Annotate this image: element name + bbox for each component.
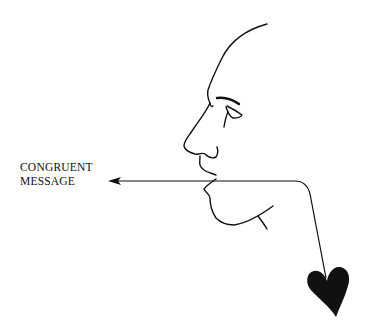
heart-icon [307,267,349,317]
face-profile-icon [184,24,267,175]
diagram-canvas [0,0,368,336]
arrow-to-label [112,181,326,278]
